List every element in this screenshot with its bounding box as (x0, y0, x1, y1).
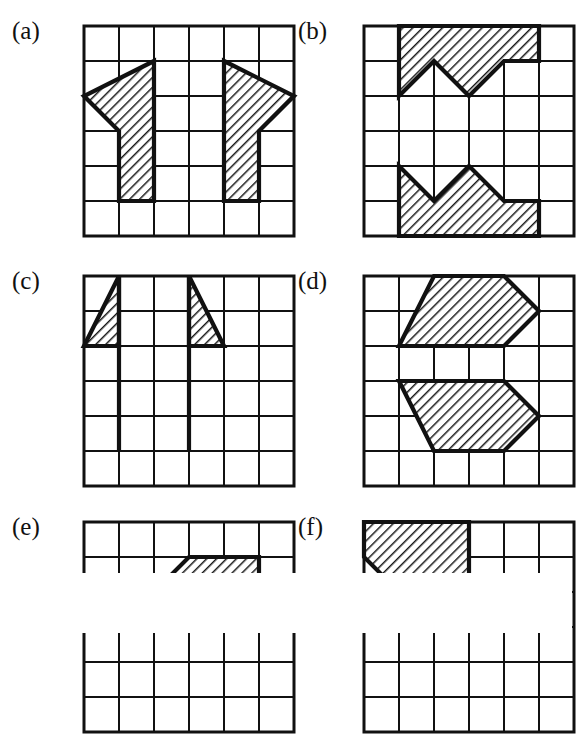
panel-label-c: (c) (12, 268, 40, 293)
panel-c-grid (80, 272, 298, 490)
grid-lines (84, 26, 294, 236)
shape-d-top-right-chevron (399, 276, 539, 346)
shape-b-bottom-zigzag-band (399, 166, 539, 236)
page-bottom-crop (0, 573, 572, 633)
panel-a-grid (80, 22, 298, 240)
panel-label-e: (e) (12, 514, 40, 539)
panel-b-grid (360, 22, 578, 240)
shape-b-top-zigzag-band (399, 26, 539, 96)
panel-label-f: (f) (298, 514, 323, 539)
panel-d-grid (360, 272, 578, 490)
panel-label-a: (a) (12, 18, 40, 43)
panel-label-b: (b) (298, 18, 327, 43)
panel-label-d: (d) (298, 268, 327, 293)
shape-d-bottom-right-chevron (399, 381, 539, 451)
